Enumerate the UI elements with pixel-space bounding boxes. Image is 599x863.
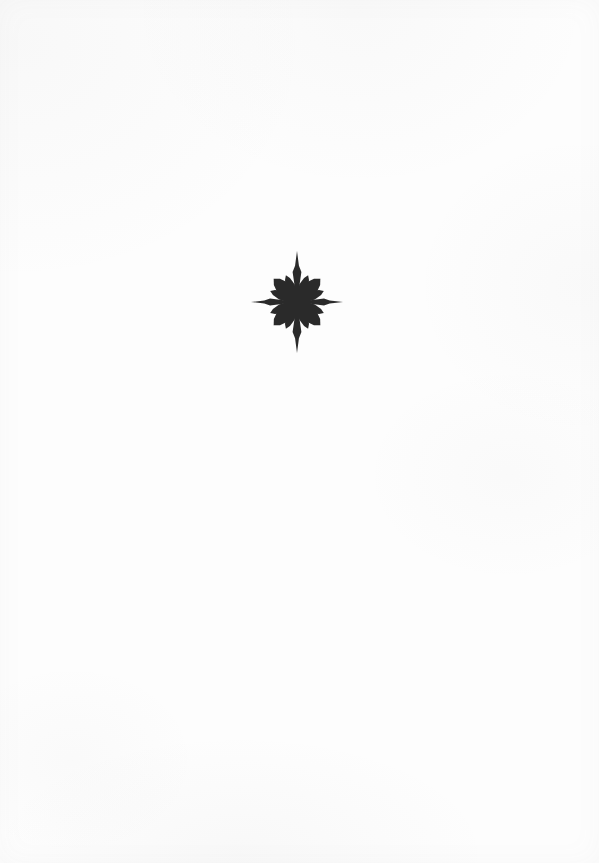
book-page: [0, 0, 599, 863]
compass-rose-star-ornament: [243, 243, 353, 361]
ornament-container: [0, 0, 599, 863]
page-edge-shading: [0, 0, 599, 863]
paper-texture-overlay: [0, 0, 599, 863]
